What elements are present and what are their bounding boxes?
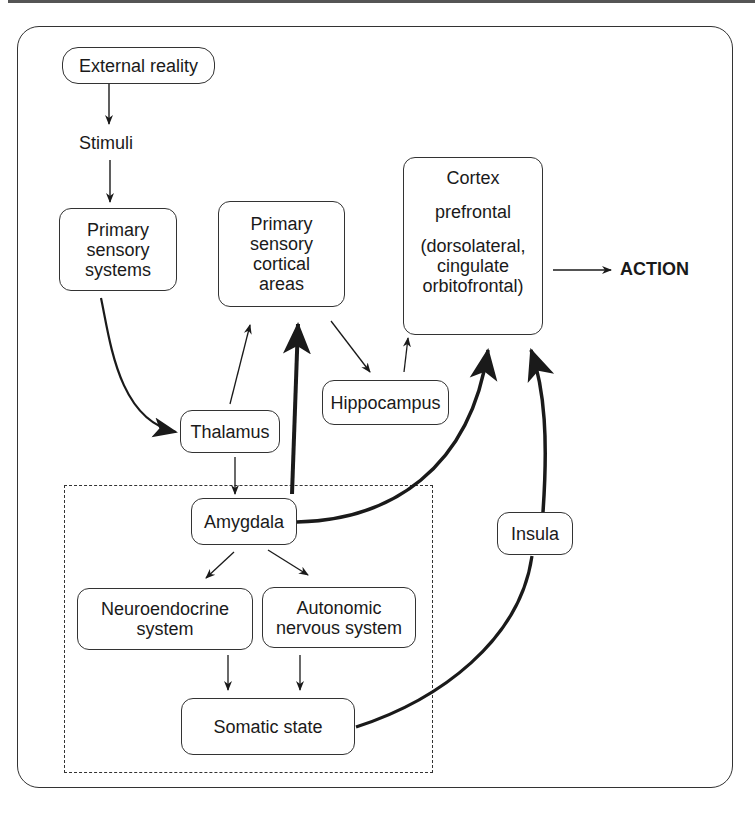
node-external-reality: External reality	[62, 47, 215, 84]
node-hippocampus: Hippocampus	[322, 380, 449, 425]
label-action: ACTION	[620, 259, 689, 280]
node-label: Thalamus	[190, 422, 269, 442]
node-somatic-state: Somatic state	[181, 698, 355, 755]
label-stimuli: Stimuli	[79, 133, 133, 153]
node-label-line: cortical	[253, 254, 310, 274]
node-cortex-prefrontal: Cortex prefrontal (dorsolateral, cingula…	[403, 157, 543, 335]
node-insula: Insula	[497, 512, 573, 555]
node-amygdala: Amygdala	[191, 498, 297, 545]
node-label: Insula	[511, 524, 559, 544]
node-label-line: Neuroendocrine	[101, 599, 229, 619]
node-detail-line: (dorsolateral,	[420, 236, 525, 256]
node-label-line: system	[136, 619, 193, 639]
node-label-line: Autonomic	[296, 598, 381, 618]
top-rule	[8, 0, 755, 3]
node-label-line: sensory	[86, 240, 149, 260]
node-neuroendocrine-system: Neuroendocrine system	[77, 588, 253, 650]
node-primary-sensory-systems: Primary sensory systems	[59, 208, 177, 291]
node-label: Somatic state	[213, 717, 322, 737]
node-label: Hippocampus	[330, 393, 440, 413]
node-label: External reality	[79, 56, 198, 76]
node-label-line: areas	[259, 274, 304, 294]
node-thalamus: Thalamus	[180, 410, 280, 453]
node-label: Amygdala	[204, 512, 284, 532]
node-label-line: Primary	[87, 220, 149, 240]
node-title: Cortex	[446, 168, 499, 188]
node-label-line: nervous system	[276, 618, 402, 638]
node-label-line: Primary	[251, 214, 313, 234]
node-label-line: systems	[85, 260, 151, 280]
node-detail-line: cingulate	[437, 256, 509, 276]
node-primary-sensory-cortical-areas: Primary sensory cortical areas	[218, 201, 345, 307]
node-subtitle: prefrontal	[435, 202, 511, 222]
node-autonomic-nervous-system: Autonomic nervous system	[262, 587, 416, 648]
node-detail-line: orbitofrontal)	[422, 276, 523, 296]
node-label-line: sensory	[250, 234, 313, 254]
